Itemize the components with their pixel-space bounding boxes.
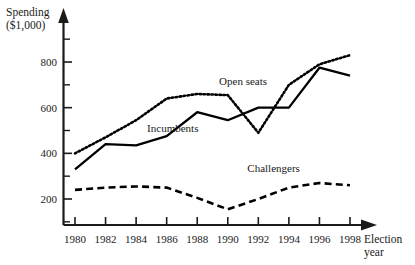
- x-tick-label: 1992: [247, 233, 269, 245]
- challengers-label: Challengers: [247, 162, 300, 174]
- x-axis-arrow: [361, 220, 377, 231]
- x-tick-label: 1980: [64, 233, 87, 245]
- open-seats-label: Open seats: [219, 75, 267, 87]
- y-tick-label: 600: [41, 102, 58, 114]
- y-axis-tick-labels: 200400600800: [41, 56, 58, 205]
- x-tick-label: 1990: [217, 233, 240, 245]
- x-axis-ticks: [75, 217, 350, 225]
- series-line-open-seats: [75, 55, 350, 153]
- incumbents-label: Incumbents: [147, 122, 198, 134]
- axes: [58, 8, 377, 231]
- x-tick-label: 1984: [125, 233, 148, 245]
- x-axis-tick-labels: 1980198219841986198819901992199419961998: [64, 233, 362, 245]
- x-tick-label: 1996: [308, 233, 331, 245]
- x-tick-label: 1998: [339, 233, 362, 245]
- y-axis-title-line2: ($1,000): [6, 19, 45, 32]
- series-line-incumbents: [75, 68, 350, 170]
- series-line-challengers: [75, 183, 350, 209]
- y-axis-arrow: [58, 8, 69, 23]
- x-axis-title-line1: Election: [364, 233, 403, 245]
- series-lines: [75, 55, 350, 209]
- y-tick-label: 400: [41, 147, 58, 159]
- x-tick-label: 1982: [95, 233, 117, 245]
- y-tick-label: 200: [41, 193, 58, 205]
- spending-line-chart: Spending ($1,000) Election year 20040060…: [0, 0, 415, 265]
- x-tick-label: 1994: [278, 233, 301, 245]
- x-axis-title-line2: year: [364, 246, 384, 259]
- x-tick-label: 1986: [156, 233, 179, 245]
- x-tick-label: 1988: [186, 233, 209, 245]
- chart-canvas: Spending ($1,000) Election year 20040060…: [0, 0, 415, 265]
- y-axis-title-line1: Spending: [6, 6, 50, 19]
- y-tick-label: 800: [41, 56, 58, 68]
- series-annotations: Open seatsIncumbentsChallengers: [147, 75, 300, 174]
